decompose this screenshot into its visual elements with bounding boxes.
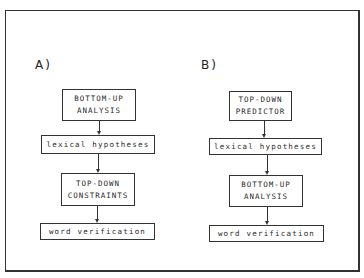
a-arrow-1-line: [99, 121, 100, 131]
box-line: BOTTOM-UP: [241, 179, 291, 191]
a-arrow-3-line: [97, 206, 98, 219]
b-lexical-hypotheses-box: lexical hypotheses: [209, 138, 322, 155]
panel-a-label: A): [35, 58, 52, 72]
a-word-verification-box: word verification: [40, 223, 155, 240]
box-text: lexical hypotheses: [47, 140, 150, 149]
box-text: word verification: [49, 227, 146, 236]
a-lexical-hypotheses-box: lexical hypotheses: [41, 135, 155, 154]
panel-b-label: B): [201, 58, 218, 72]
box-line: CONSTRAINTS: [68, 190, 129, 202]
box-text: word verification: [218, 229, 315, 238]
a-top-down-constraints-box: TOP-DOWN CONSTRAINTS: [61, 173, 135, 206]
b-top-down-predictor-box: TOP-DOWN PREDICTOR: [229, 91, 292, 121]
b-word-verification-box: word verification: [209, 225, 324, 242]
b-arrow-3-line: [267, 207, 268, 221]
box-line: TOP-DOWN: [238, 94, 282, 106]
a-arrow-2-line: [98, 154, 99, 169]
a-bottom-up-analysis-box: BOTTOM-UP ANALYSIS: [62, 89, 136, 121]
box-line: ANALYSIS: [244, 191, 288, 203]
box-line: ANALYSIS: [77, 105, 121, 117]
box-text: lexical hypotheses: [214, 142, 317, 151]
b-bottom-up-analysis-box: BOTTOM-UP ANALYSIS: [229, 175, 303, 207]
box-line: BOTTOM-UP: [74, 93, 124, 105]
b-arrow-1-line: [264, 121, 265, 134]
box-line: PREDICTOR: [236, 106, 286, 118]
b-arrow-2-line: [267, 155, 268, 171]
box-line: TOP-DOWN: [76, 178, 120, 190]
